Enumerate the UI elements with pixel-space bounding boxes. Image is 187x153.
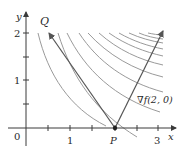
x-tick-label-3: 3: [154, 135, 160, 146]
level-curve: [38, 33, 106, 126]
y-tick-label-1: 1: [14, 75, 20, 86]
gradient-level-curve-figure: y x 0 2 1 1 3 P Q ∇f(2, 0): [0, 0, 187, 153]
level-curve: [79, 33, 163, 92]
level-curve: [119, 33, 163, 49]
point-p-label: P: [109, 135, 117, 146]
gradient-vector: [115, 31, 163, 128]
y-axis-label: y: [15, 11, 22, 22]
x-axis-label: x: [168, 131, 174, 142]
origin-label: 0: [14, 131, 20, 142]
level-curve: [109, 33, 163, 56]
gradient-label: ∇f(2, 0): [137, 94, 173, 105]
point-p-dot: [113, 126, 117, 130]
y-tick-label-2: 2: [14, 28, 20, 39]
point-q-label: Q: [40, 15, 49, 28]
plot-canvas: y x 0 2 1 1 3 P Q ∇f(2, 0): [0, 0, 187, 153]
level-curves: [38, 33, 163, 137]
pq-vector: [49, 33, 115, 128]
x-tick-label-1: 1: [67, 135, 73, 146]
